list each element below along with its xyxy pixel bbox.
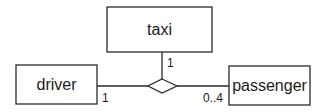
multiplicity-passenger: 0..4 bbox=[203, 91, 223, 105]
class-passenger: passenger bbox=[229, 66, 310, 105]
association-diagram: taxi driver passenger 1 1 0..4 bbox=[0, 0, 321, 112]
multiplicity-driver: 1 bbox=[102, 91, 109, 105]
class-taxi: taxi bbox=[107, 7, 212, 52]
association-diamond bbox=[148, 79, 177, 93]
multiplicity-taxi: 1 bbox=[167, 56, 174, 70]
class-driver-label: driver bbox=[36, 76, 77, 93]
class-taxi-label: taxi bbox=[147, 21, 172, 38]
class-passenger-label: passenger bbox=[232, 77, 307, 94]
class-driver: driver bbox=[16, 65, 97, 104]
